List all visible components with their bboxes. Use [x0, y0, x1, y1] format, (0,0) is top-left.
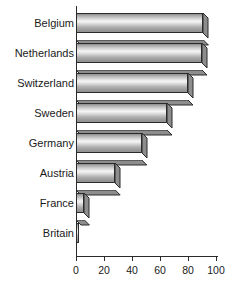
bar — [76, 193, 84, 213]
bar-front-face — [76, 103, 167, 123]
x-tick-label: 100 — [196, 264, 236, 276]
bar-row: Austria — [0, 158, 244, 188]
bar-3d-cap — [203, 13, 209, 33]
bar-row: Britain — [0, 218, 244, 248]
category-label: France — [0, 188, 74, 218]
bar-front-face — [76, 193, 84, 213]
category-label: Belgium — [0, 8, 74, 38]
x-tick-mark — [188, 256, 189, 261]
bar-3d-cap — [188, 73, 194, 93]
x-tick-mark — [132, 256, 133, 261]
x-tick-mark — [104, 256, 105, 261]
bar-row: Switzerland — [0, 68, 244, 98]
bar-row: Netherlands — [0, 38, 244, 68]
category-label: Britain — [0, 218, 74, 248]
x-axis-line — [76, 256, 218, 257]
bar — [76, 13, 203, 33]
x-tick-mark — [160, 256, 161, 261]
bar-3d-cap — [142, 133, 148, 153]
bar-row: Belgium — [0, 8, 244, 38]
x-tick-mark — [216, 256, 217, 261]
x-tick-mark — [76, 256, 77, 261]
bar-front-face — [76, 133, 142, 153]
bar — [76, 163, 115, 183]
bar — [76, 43, 202, 63]
bar-row: Sweden — [0, 98, 244, 128]
bar-front-face — [76, 73, 188, 93]
category-label: Austria — [0, 158, 74, 188]
bar — [76, 73, 188, 93]
category-label: Switzerland — [0, 68, 74, 98]
category-label: Netherlands — [0, 38, 74, 68]
bar-front-face — [76, 163, 115, 183]
bar-front-face — [76, 43, 202, 63]
bar-3d-cap — [84, 193, 90, 213]
category-label: Germany — [0, 128, 74, 158]
bar-3d-cap — [115, 163, 121, 183]
y-axis-line — [76, 6, 77, 257]
bar — [76, 103, 167, 123]
bar-chart: BelgiumNetherlandsSwitzerlandSwedenGerma… — [0, 0, 244, 302]
bar-3d-cap — [202, 43, 208, 63]
bar-row: Germany — [0, 128, 244, 158]
category-label: Sweden — [0, 98, 74, 128]
bar — [76, 133, 142, 153]
bar-row: France — [0, 188, 244, 218]
bar-3d-cap — [167, 103, 173, 123]
bar-front-face — [76, 13, 203, 33]
